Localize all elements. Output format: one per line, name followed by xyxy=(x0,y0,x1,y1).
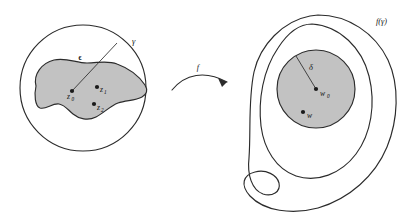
point-w0-subscript: 0 xyxy=(327,93,330,99)
domain-region-shape xyxy=(35,59,147,119)
range-side-group: δ f(γ) w 0 w xyxy=(244,15,396,211)
point-w xyxy=(301,110,305,114)
map-function-label: f xyxy=(197,63,201,72)
point-z0-subscript: 0 xyxy=(72,96,75,102)
point-z0-label: z xyxy=(66,92,70,101)
point-z1-label: z xyxy=(99,85,103,94)
point-z2-label: z xyxy=(96,103,100,112)
gamma-label: γ xyxy=(132,37,136,46)
map-arrow-curve xyxy=(172,75,227,90)
point-z2-subscript: 2 xyxy=(101,107,104,113)
point-z2 xyxy=(92,102,96,106)
map-arrow-group: f xyxy=(172,63,227,90)
f-gamma-label: f(γ) xyxy=(376,17,387,26)
domain-side-group: ϵ γ z 0 z 1 z 2 xyxy=(20,25,147,151)
point-z0 xyxy=(70,89,74,93)
point-z1-subscript: 1 xyxy=(104,89,107,95)
point-z1 xyxy=(95,85,99,89)
epsilon-label: ϵ xyxy=(78,53,82,62)
point-w0 xyxy=(314,87,318,91)
figure-container: ϵ γ z 0 z 1 z 2 f xyxy=(0,0,415,221)
diagram-svg: ϵ γ z 0 z 1 z 2 f xyxy=(0,0,415,221)
delta-label: δ xyxy=(309,63,313,72)
